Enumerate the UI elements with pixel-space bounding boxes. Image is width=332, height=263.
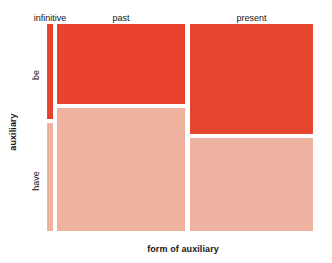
tile-present-be bbox=[190, 24, 313, 134]
column-label-past: past bbox=[57, 13, 185, 23]
tile-present-have bbox=[190, 138, 313, 231]
mosaic-plot: infinitive past present be have form of … bbox=[0, 0, 332, 263]
x-axis-title: form of auxiliary bbox=[0, 244, 332, 254]
tile-infinitive-be bbox=[47, 24, 53, 119]
y-axis-title: auxiliary bbox=[8, 97, 18, 167]
row-label-be: be bbox=[31, 55, 41, 95]
tile-past-be bbox=[57, 24, 185, 104]
column-label-present: present bbox=[190, 13, 313, 23]
tile-past-have bbox=[57, 108, 185, 231]
row-label-have: have bbox=[31, 159, 41, 203]
tile-infinitive-have bbox=[47, 123, 53, 231]
